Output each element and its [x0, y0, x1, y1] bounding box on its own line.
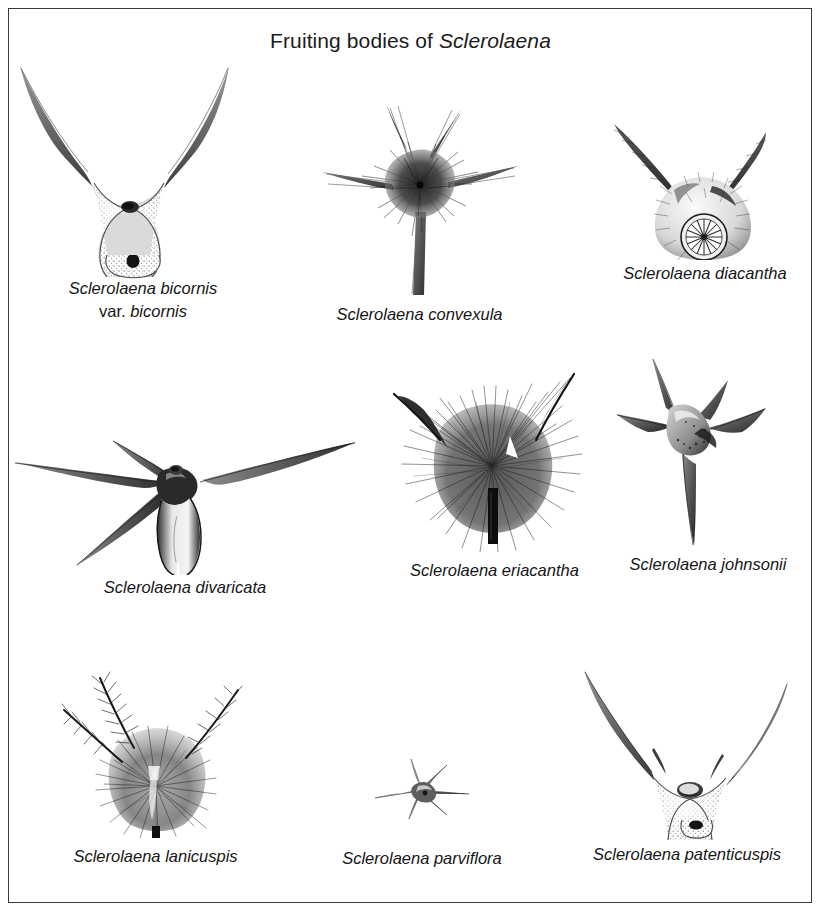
plate-title-prefix: Fruiting bodies of	[270, 29, 439, 52]
caption-patenticuspis-line1: Sclerolaena patenticuspis	[593, 845, 781, 863]
caption-convexula-line1: Sclerolaena convexula	[336, 305, 502, 323]
caption-parviflora: Sclerolaena parviflora	[322, 847, 522, 870]
figure-bicornis	[18, 62, 268, 277]
specimen-diacantha: Sclerolaena diacantha	[600, 110, 810, 300]
specimen-parviflora: Sclerolaena parviflora	[322, 742, 522, 872]
specimen-eriacantha: Sclerolaena eriacantha	[392, 362, 597, 587]
caption-divaricata: Sclerolaena divaricata	[10, 576, 360, 599]
caption-lanicuspis-line1: Sclerolaena lanicuspis	[73, 847, 237, 865]
figure-divaricata	[10, 420, 360, 575]
plate-title: Fruiting bodies of Sclerolaena	[0, 29, 821, 53]
specimen-lanicuspis: Sclerolaena lanicuspis	[48, 668, 263, 873]
caption-patenticuspis: Sclerolaena patenticuspis	[572, 843, 802, 866]
caption-bicornis-line1: Sclerolaena bicornis	[69, 279, 218, 297]
figure-lanicuspis	[48, 668, 263, 838]
figure-convexula	[312, 96, 527, 296]
caption-diacantha: Sclerolaena diacantha	[600, 262, 810, 285]
specimen-patenticuspis-body-ext	[572, 820, 802, 842]
figure-patenticuspis	[572, 640, 802, 840]
figure-johnsonii	[608, 356, 808, 546]
caption-bicornis-line2: bicornis	[130, 302, 187, 320]
figure-diacantha	[600, 110, 810, 260]
caption-johnsonii-line1: Sclerolaena johnsonii	[630, 555, 787, 573]
specimen-bicornis: Sclerolaena bicornis var. bicornis	[18, 62, 268, 317]
caption-lanicuspis: Sclerolaena lanicuspis	[48, 845, 263, 868]
plate-title-genus: Sclerolaena	[439, 29, 551, 52]
specimen-johnsonii: Sclerolaena johnsonii	[608, 356, 808, 581]
caption-diacantha-line1: Sclerolaena diacantha	[623, 264, 786, 282]
specimen-divaricata: Sclerolaena divaricata	[10, 420, 360, 605]
caption-convexula: Sclerolaena convexula	[312, 303, 527, 326]
figure-parviflora	[322, 742, 522, 842]
illustration-plate: Fruiting bodies of Sclerolaena	[0, 0, 821, 912]
specimen-convexula: Sclerolaena convexula	[312, 96, 527, 341]
caption-divaricata-line1: Sclerolaena divaricata	[104, 578, 266, 596]
caption-bicornis-rank: var.	[99, 302, 126, 320]
caption-eriacantha-line1: Sclerolaena eriacantha	[410, 561, 579, 579]
figure-eriacantha	[392, 362, 597, 552]
caption-bicornis: Sclerolaena bicornis var. bicornis	[18, 277, 268, 324]
caption-johnsonii: Sclerolaena johnsonii	[608, 553, 808, 576]
caption-parviflora-line1: Sclerolaena parviflora	[342, 849, 502, 867]
caption-eriacantha: Sclerolaena eriacantha	[392, 559, 597, 582]
